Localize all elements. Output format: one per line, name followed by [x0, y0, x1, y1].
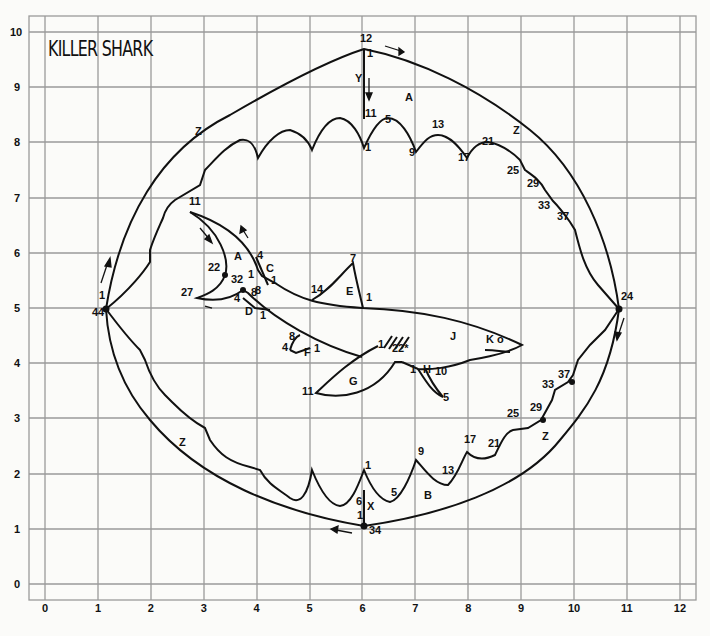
dot-label: 1: [366, 292, 372, 303]
y-tick-label: 5: [14, 302, 20, 314]
dot-label: 22: [208, 262, 220, 273]
dot-label: 4: [257, 250, 263, 261]
dot-label: 34: [369, 525, 381, 536]
dot-label: A: [234, 251, 242, 262]
y-tick-label: 3: [14, 412, 20, 424]
dot-label: A: [405, 92, 413, 103]
dot-label: 1: [367, 48, 373, 59]
dot-label: 33: [542, 379, 554, 390]
dot-label: 5: [385, 114, 391, 125]
x-tick-label: 8: [465, 602, 471, 614]
x-tick-label: 6: [359, 602, 365, 614]
page-title: KILLER SHARK: [48, 36, 152, 61]
dot-label: F: [304, 347, 311, 358]
dot-label: X: [367, 501, 374, 512]
dot-label: 1: [378, 339, 384, 350]
dot-label: 37: [558, 369, 570, 380]
dot-label: B: [424, 490, 432, 501]
dot-label: 12: [360, 33, 372, 44]
dot-label: 11: [189, 196, 201, 207]
dot-label: Z: [195, 126, 202, 137]
x-tick-label: 2: [148, 602, 154, 614]
dot-to-dot-grid: [0, 0, 710, 636]
dot-label: 1: [271, 275, 277, 286]
dot-label: 1: [260, 310, 266, 321]
x-tick-label: 4: [254, 602, 260, 614]
dot-label: H: [423, 364, 431, 375]
dot-label: 1: [248, 269, 254, 280]
dot-label: 21: [482, 136, 494, 147]
dot-label: 14: [311, 284, 323, 295]
y-tick-label: 1: [14, 523, 20, 535]
dot-label: J: [450, 331, 456, 342]
dot-label: 25: [507, 408, 519, 419]
dot-label: 5: [391, 487, 397, 498]
x-tick-label: 5: [307, 602, 313, 614]
dot-label: 29: [527, 178, 539, 189]
dot-label: Z: [179, 437, 186, 448]
dot-label: 9: [409, 147, 415, 158]
dot-label: 1: [357, 510, 363, 521]
dot-label: D: [245, 306, 253, 317]
dot-label: 37: [557, 211, 569, 222]
dot-label: 8: [251, 287, 257, 298]
dot-label: 29: [530, 402, 542, 413]
shark-outline: [190, 212, 522, 397]
dot-label: 10: [435, 366, 447, 377]
x-tick-label: 10: [568, 602, 580, 614]
dot-label: 4: [234, 293, 240, 304]
dot-label: K o: [486, 334, 504, 345]
y-tick-label: 6: [14, 247, 20, 259]
dot-label: 27: [181, 287, 193, 298]
dot-label: 17: [458, 152, 470, 163]
x-tick-label: 7: [412, 602, 418, 614]
x-tick-label: 11: [621, 602, 633, 614]
dot-label: 5: [443, 392, 449, 403]
dot-label: Z: [542, 431, 549, 442]
x-tick-label: 9: [518, 602, 524, 614]
dot-label: 17: [464, 434, 476, 445]
dot-label: C: [266, 263, 274, 274]
dot-label: 9: [418, 446, 424, 457]
dot-label: 4: [282, 342, 288, 353]
x-tick-label: 1: [95, 602, 101, 614]
dot-label: G: [349, 376, 358, 387]
y-tick-label: 8: [14, 136, 20, 148]
y-tick-label: 7: [14, 192, 20, 204]
dot-label: 32: [231, 274, 243, 285]
dot-label: 1: [410, 364, 416, 375]
dot-label: 33: [538, 200, 550, 211]
dot-label: 24: [621, 291, 633, 302]
dot-label: 22*: [392, 343, 409, 354]
dot-label: 25: [507, 165, 519, 176]
dot-label: 13: [432, 119, 444, 130]
dot-label: 6: [356, 496, 362, 507]
dot-label: Z: [513, 125, 520, 136]
dot-label: 13: [442, 465, 454, 476]
y-tick-label: 10: [10, 26, 22, 38]
y-tick-label: 2: [14, 468, 20, 480]
dot-label: Y: [355, 73, 362, 84]
dot-label: 44: [92, 307, 104, 318]
dot-label: 11: [365, 108, 377, 119]
dot-label: 7: [350, 253, 356, 264]
dot-label: E: [346, 286, 353, 297]
x-tick-label: 12: [674, 602, 686, 614]
dot-label: 11: [302, 386, 314, 397]
y-tick-label: 9: [14, 81, 20, 93]
dot-label: 1: [99, 290, 105, 301]
dot-label: 1: [314, 343, 320, 354]
dot-label: 1: [365, 142, 371, 153]
dot-label: 21: [488, 438, 500, 449]
dot-label: 8: [289, 331, 295, 342]
x-tick-label: 3: [201, 602, 207, 614]
y-tick-label: 0: [14, 578, 20, 590]
dot-label: 1: [365, 460, 371, 471]
y-tick-label: 4: [14, 357, 20, 369]
x-tick-label: 0: [42, 602, 48, 614]
